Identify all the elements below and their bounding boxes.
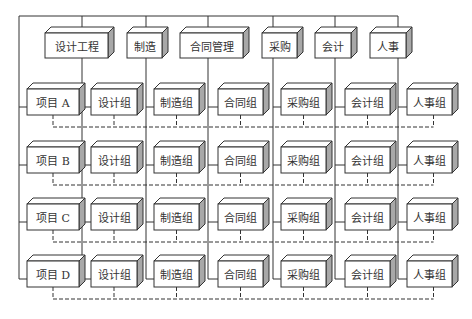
group-box-2-1-label: 制造组 (154, 204, 199, 230)
group-box-3-3-label: 采购组 (281, 261, 326, 287)
dept-box-2-label: 合同管理 (180, 33, 243, 58)
group-box-2-2-label: 合同组 (218, 204, 263, 230)
group-box-2-2-side-face (263, 198, 269, 230)
group-box-0-3-label: 采购组 (281, 89, 326, 115)
group-box-0-0-label: 设计组 (91, 89, 137, 115)
group-box-2-0-side-face (137, 198, 143, 230)
group-box-0-1-side-face (199, 83, 205, 115)
dept-box-3-side-face (297, 27, 303, 58)
group-box-0-1-label: 制造组 (154, 89, 199, 115)
project-box-0-label: 项目 A (27, 89, 79, 115)
group-box-2-3-side-face (326, 198, 332, 230)
project-box-0-side-face (79, 83, 85, 115)
group-box-1-5-label: 人事组 (407, 147, 452, 173)
group-box-0-4-label: 会计组 (345, 89, 390, 115)
group-box-3-0-side-face (137, 255, 143, 287)
group-box-2-4-label: 会计组 (345, 204, 390, 230)
dept-box-4-label: 会计 (315, 33, 351, 58)
group-box-0-5-side-face (452, 83, 458, 115)
group-box-2-5-side-face (452, 198, 458, 230)
group-box-3-4-side-face (390, 255, 396, 287)
group-box-3-3-side-face (326, 255, 332, 287)
group-box-3-5-label: 人事组 (407, 261, 452, 287)
project-box-2-side-face (79, 198, 85, 230)
group-box-1-5-side-face (452, 141, 458, 173)
project-box-2-label: 项目 C (27, 204, 79, 230)
dept-box-4-side-face (351, 27, 357, 58)
group-box-1-4-label: 会计组 (345, 147, 390, 173)
group-box-3-4-label: 会计组 (345, 261, 390, 287)
group-box-1-4-side-face (390, 141, 396, 173)
dept-box-5-label: 人事 (370, 33, 406, 58)
group-box-3-1-side-face (199, 255, 205, 287)
group-box-3-2-side-face (263, 255, 269, 287)
group-box-3-1-label: 制造组 (154, 261, 199, 287)
group-box-2-4-side-face (390, 198, 396, 230)
group-box-1-1-label: 制造组 (154, 147, 199, 173)
dept-box-3-label: 采购 (262, 33, 297, 58)
group-box-1-3-label: 采购组 (281, 147, 326, 173)
dept-box-2-side-face (243, 27, 249, 58)
dept-box-1-label: 制造 (127, 33, 162, 58)
group-box-3-0-label: 设计组 (91, 261, 137, 287)
group-box-2-1-side-face (199, 198, 205, 230)
group-box-2-3-label: 采购组 (281, 204, 326, 230)
group-box-1-3-side-face (326, 141, 332, 173)
dept-box-0-label: 设计工程 (45, 33, 108, 58)
group-box-1-0-side-face (137, 141, 143, 173)
group-box-2-5-label: 人事组 (407, 204, 452, 230)
group-box-0-3-side-face (326, 83, 332, 115)
group-box-3-2-label: 合同组 (218, 261, 263, 287)
group-box-0-0-side-face (137, 83, 143, 115)
group-box-1-1-side-face (199, 141, 205, 173)
dept-box-0-side-face (108, 27, 114, 58)
group-box-3-5-side-face (452, 255, 458, 287)
group-box-0-4-side-face (390, 83, 396, 115)
dept-box-5-side-face (406, 27, 412, 58)
group-box-1-2-side-face (263, 141, 269, 173)
group-box-0-5-label: 人事组 (407, 89, 452, 115)
project-box-3-label: 项目 D (27, 261, 79, 287)
project-box-1-label: 项目 B (27, 147, 79, 173)
group-box-0-2-label: 合同组 (218, 89, 263, 115)
project-box-1-side-face (79, 141, 85, 173)
group-box-1-0-label: 设计组 (91, 147, 137, 173)
dept-box-1-side-face (162, 27, 168, 58)
group-box-1-2-label: 合同组 (218, 147, 263, 173)
project-box-3-side-face (79, 255, 85, 287)
matrix-org-diagram: 设计工程制造合同管理采购会计人事项目 A设计组制造组合同组采购组会计组人事组项目… (0, 0, 472, 319)
group-box-0-2-side-face (263, 83, 269, 115)
group-box-2-0-label: 设计组 (91, 204, 137, 230)
